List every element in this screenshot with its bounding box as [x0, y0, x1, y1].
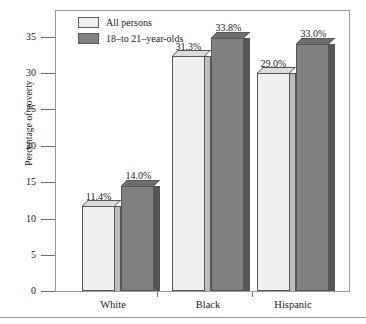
bar-front-face [296, 44, 329, 291]
bar-white-all-persons[interactable] [82, 206, 115, 291]
bar-value-label-hispanic-all: 29.0% [251, 59, 296, 69]
y-tick-mark-20 [41, 146, 55, 147]
legend-item-youth[interactable]: 18–to 21–year-olds [78, 32, 183, 45]
legend-swatch-icon-all-persons [78, 17, 99, 28]
bar-value-label-black-youth: 33.8% [206, 23, 251, 33]
y-tick-mark-35 [41, 37, 55, 38]
bar-value-label-white-all: 11.4% [76, 192, 121, 202]
y-tick-label-15: 15 [0, 177, 36, 187]
legend-swatch-icon-youth [78, 33, 99, 44]
bar-side-face [244, 38, 250, 291]
bar-front-face [121, 186, 154, 291]
x-axis-label-hispanic: Hispanic [243, 299, 343, 311]
legend-label-youth: 18–to 21–year-olds [106, 33, 183, 44]
y-tick-mark-0 [41, 291, 55, 292]
y-tick-label-20: 20 [0, 141, 36, 151]
bar-front-face [257, 73, 290, 291]
y-tick-mark-30 [41, 73, 55, 74]
legend-item-all-persons[interactable]: All persons [78, 16, 183, 29]
bar-front-face [82, 206, 115, 291]
y-tick-mark-5 [41, 255, 55, 256]
legend-label-all-persons: All persons [106, 17, 152, 28]
poverty-bar-chart-figure: Percentage of poverty 35 30 25 20 15 10 … [0, 0, 366, 324]
y-tick-mark-15 [41, 182, 55, 183]
y-tick-label-10: 10 [0, 214, 36, 224]
bar-black-all-persons[interactable] [172, 56, 205, 291]
y-tick-mark-10 [41, 219, 55, 220]
x-tick-mark-1 [157, 292, 158, 297]
bar-group-white: 11.4% 14.0% [82, 11, 168, 291]
y-tick-label-35: 35 [0, 32, 36, 42]
x-axis-label-white: White [63, 299, 163, 311]
x-tick-mark-2 [252, 292, 253, 297]
bar-hispanic-all-persons[interactable] [257, 73, 290, 291]
bar-front-face [211, 38, 244, 291]
y-tick-label-0: 0 [0, 286, 36, 296]
bar-black-youth[interactable] [211, 38, 244, 291]
y-tick-label-30: 30 [0, 68, 36, 78]
bar-group-black: 31.3% 33.8% [172, 11, 258, 291]
bar-side-face [329, 44, 335, 291]
y-tick-label-25: 25 [0, 104, 36, 114]
bar-side-face [154, 186, 160, 291]
legend: All persons 18–to 21–year-olds [78, 16, 183, 48]
bars-layer: 11.4% 14.0% 31.3% 33.8% [56, 11, 349, 291]
y-tick-mark-25 [41, 109, 55, 110]
bar-front-face [172, 56, 205, 291]
bar-value-label-white-youth: 14.0% [116, 171, 161, 181]
bar-white-youth[interactable] [121, 186, 154, 291]
bar-hispanic-youth[interactable] [296, 44, 329, 291]
y-tick-label-5: 5 [0, 250, 36, 260]
bar-group-hispanic: 29.0% 33.0% [257, 11, 343, 291]
bottom-divider [0, 317, 366, 318]
bar-value-label-hispanic-youth: 33.0% [291, 29, 336, 39]
